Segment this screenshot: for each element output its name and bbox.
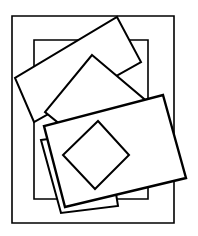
figure-canvas bbox=[0, 0, 198, 236]
overlapping-rectangles-drawing bbox=[0, 0, 198, 236]
